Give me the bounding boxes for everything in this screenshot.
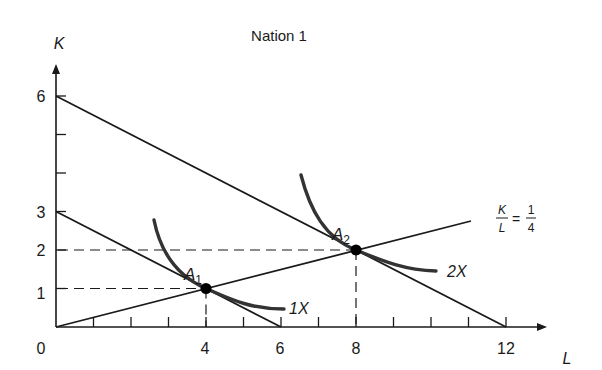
point-a2 [351, 245, 362, 256]
y-axis-label: K [54, 35, 66, 52]
isocost-line-2 [56, 96, 506, 327]
y-tick-1: 1 [37, 285, 46, 302]
y-tick-3: 3 [37, 204, 46, 221]
isoquant-diagram: Nation 1 K L 1 2 3 6 0 4 6 8 12 [0, 0, 602, 370]
isocost-line-1 [56, 212, 281, 328]
svg-text:1: 1 [528, 203, 535, 217]
svg-text:=: = [512, 211, 520, 227]
x-ticks [94, 317, 507, 327]
x-tick-0: 0 [37, 340, 46, 357]
label-a1: A1 [183, 265, 202, 287]
isoquant-2x [301, 175, 436, 271]
x-tick-12: 12 [497, 340, 515, 357]
y-tick-6: 6 [37, 88, 46, 105]
svg-text:K: K [498, 203, 507, 217]
x-axis-label: L [563, 350, 572, 367]
x-tick-4: 4 [201, 340, 210, 357]
label-a2: A2 [331, 225, 350, 247]
y-tick-2: 2 [37, 242, 46, 259]
point-a1 [201, 283, 212, 294]
label-1x: 1X [289, 300, 310, 317]
isoquant-1x [154, 220, 284, 309]
x-tick-8: 8 [352, 340, 361, 357]
ray-label: K L = 1 4 [496, 203, 536, 235]
chart-title: Nation 1 [251, 27, 307, 44]
label-2x: 2X [446, 263, 468, 280]
svg-text:L: L [499, 221, 506, 235]
x-tick-6: 6 [276, 340, 285, 357]
svg-text:4: 4 [528, 221, 535, 235]
ray-kl-quarter [56, 221, 471, 327]
y-ticks [56, 96, 66, 289]
